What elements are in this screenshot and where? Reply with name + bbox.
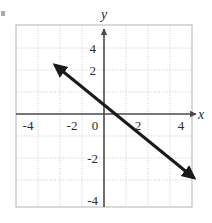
x-tick-label-2: 2 <box>135 118 142 133</box>
crop-edge-artifact <box>1 11 5 16</box>
x-axis-label: x <box>197 107 205 122</box>
y-tick-label-neg4: -4 <box>87 193 98 208</box>
y-tick-label-2: 2 <box>90 63 97 78</box>
y-tick-label-neg2: -2 <box>87 151 98 166</box>
x-tick-label-4: 4 <box>178 118 185 133</box>
coordinate-plane: -4 -2 0 2 4 4 2 -2 -4 x y <box>0 0 212 223</box>
origin-label: 0 <box>92 118 99 133</box>
y-axis-label: y <box>99 7 108 22</box>
graph-figure: -4 -2 0 2 4 4 2 -2 -4 x y <box>0 0 212 223</box>
x-tick-label-neg2: -2 <box>67 118 78 133</box>
y-tick-label-4: 4 <box>90 41 97 56</box>
x-tick-label-neg4: -4 <box>23 118 34 133</box>
